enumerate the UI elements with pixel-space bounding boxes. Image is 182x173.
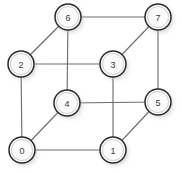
node-circle[interactable] (100, 51, 126, 77)
graph-node[interactable]: 0 (9, 137, 37, 166)
edges-layer (21, 17, 158, 150)
graph-node[interactable]: 2 (8, 51, 36, 80)
graph-node[interactable]: 7 (145, 4, 173, 33)
node-circle[interactable] (9, 137, 35, 163)
graph-node[interactable]: 1 (100, 137, 128, 166)
nodes-layer: 01234567 (8, 4, 173, 166)
node-circle[interactable] (145, 4, 171, 30)
cube-graph-figure: 01234567 (0, 0, 182, 173)
node-circle[interactable] (55, 4, 81, 30)
graph-node[interactable]: 6 (55, 4, 83, 33)
graph-node[interactable]: 4 (54, 90, 82, 119)
graph-node[interactable]: 3 (100, 51, 128, 80)
node-circle[interactable] (8, 51, 34, 77)
node-circle[interactable] (100, 137, 126, 163)
graph-canvas: 01234567 (0, 0, 182, 173)
node-circle[interactable] (145, 89, 171, 115)
graph-node[interactable]: 5 (145, 89, 173, 118)
node-circle[interactable] (54, 90, 80, 116)
